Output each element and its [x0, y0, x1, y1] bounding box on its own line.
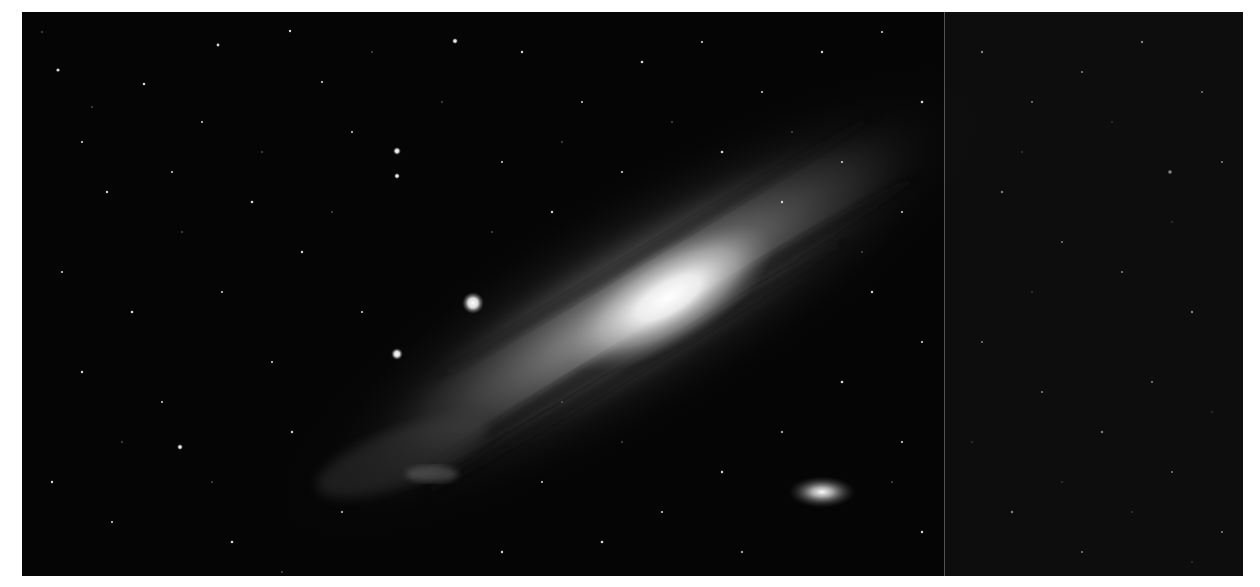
right-panel-overlay: [945, 12, 1243, 576]
satellite-galaxy: [788, 476, 856, 508]
stitch-seam: [944, 12, 945, 576]
bright-star: [462, 292, 484, 314]
astronomy-photo: [22, 12, 1243, 576]
